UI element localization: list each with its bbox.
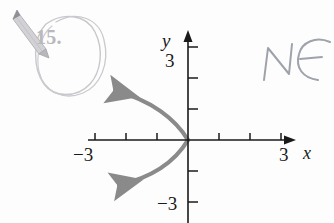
x-axis-label: x: [303, 144, 311, 162]
y-axis-label: y: [162, 31, 170, 50]
y-tick-label-3: 3: [165, 51, 175, 70]
y-axis-arrowhead: [184, 30, 193, 42]
y-tick-label-minus3: −3: [157, 194, 177, 213]
x-tick-label-minus3: −3: [73, 145, 93, 164]
y-axis-ticks: [188, 47, 198, 202]
x-tick-label-3: 3: [279, 145, 289, 164]
problem-number-label: 15.: [36, 26, 62, 49]
figure-canvas: y 3 −3 −3 3 x 15.: [0, 0, 334, 223]
